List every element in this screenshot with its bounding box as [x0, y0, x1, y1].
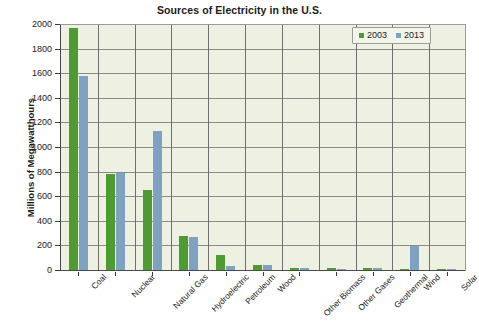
y-axis-ticks: 0200400600800100012001400160018002000 [0, 0, 57, 335]
x-axis-tick-label: Coal [89, 272, 108, 291]
x-axis-tick-mark [299, 272, 300, 276]
x-axis-tick-mark [78, 272, 79, 276]
x-axis-tick-mark [226, 272, 227, 276]
bar [179, 236, 188, 270]
x-axis-tick-mark [447, 272, 448, 276]
x-axis-tick-mark [410, 272, 411, 276]
chart-container: Sources of Electricity in the U.S. Milli… [0, 0, 479, 335]
chart-title: Sources of Electricity in the U.S. [0, 4, 479, 16]
legend-item-2013: 2013 [396, 30, 424, 40]
legend-label-2013: 2013 [404, 30, 424, 40]
x-axis-tick-mark [115, 272, 116, 276]
bar [69, 28, 78, 270]
y-axis-tick-label: 2000 [0, 19, 52, 29]
y-axis-tick-label: 1000 [0, 142, 52, 152]
bar [253, 265, 262, 270]
bar-group [207, 24, 244, 270]
y-axis-tick-label: 1600 [0, 68, 52, 78]
bar [290, 268, 299, 270]
bar [400, 269, 409, 270]
x-axis-labels: CoalNuclearNatural GasHydroelectricPetro… [60, 272, 465, 334]
y-axis-tick-label: 200 [0, 240, 52, 250]
bar [373, 268, 382, 270]
bar-groups [60, 24, 465, 270]
y-axis-tick-label: 400 [0, 216, 52, 226]
bar [106, 174, 115, 270]
bar [337, 269, 346, 270]
bar-group [97, 24, 134, 270]
x-axis-tick-label: Wood [275, 272, 297, 294]
bar [216, 255, 225, 270]
bar [327, 268, 336, 270]
x-axis-tick-mark [373, 272, 374, 276]
y-axis-tick-label: 1200 [0, 117, 52, 127]
x-axis-tick-label: Geothermal [392, 272, 430, 310]
bar [153, 131, 162, 270]
x-axis-tick-mark [152, 272, 153, 276]
legend-item-2003: 2003 [359, 30, 387, 40]
bar [79, 76, 88, 270]
bar-group [391, 24, 428, 270]
bar [116, 173, 125, 270]
bar [189, 237, 198, 270]
x-axis-tick-label: Natural Gas [171, 272, 210, 311]
y-axis-tick-label: 600 [0, 191, 52, 201]
bar-group [355, 24, 392, 270]
x-axis-tick-label: Solar [458, 272, 479, 293]
y-axis-tick-label: 1400 [0, 93, 52, 103]
x-axis-tick-label: Hydroelectric [209, 272, 251, 314]
legend-label-2003: 2003 [367, 30, 387, 40]
bar-group [134, 24, 171, 270]
bar [410, 246, 419, 270]
bar-group [318, 24, 355, 270]
bar-group [170, 24, 207, 270]
legend-swatch-icon-2013 [396, 33, 401, 38]
bar [143, 190, 152, 270]
y-axis-tick-label: 0 [0, 265, 52, 275]
bar-group [244, 24, 281, 270]
bar [447, 269, 456, 270]
bar [263, 265, 272, 270]
legend-swatch-icon-2003 [359, 33, 364, 38]
chart-legend: 2003 2013 [352, 27, 431, 44]
bar [363, 268, 372, 270]
bar [226, 266, 235, 270]
bar-group [428, 24, 465, 270]
x-axis-tick-mark [189, 272, 190, 276]
bar [300, 268, 309, 270]
x-axis-tick-label: Nuclear [130, 272, 157, 299]
bar-group [60, 24, 97, 270]
y-axis-tick-label: 1800 [0, 44, 52, 54]
x-axis-tick-mark [336, 272, 337, 276]
x-axis-tick-mark [263, 272, 264, 276]
plot-frame-right [465, 24, 466, 271]
bar-group [281, 24, 318, 270]
y-axis-tick-label: 800 [0, 167, 52, 177]
bar [437, 269, 446, 270]
